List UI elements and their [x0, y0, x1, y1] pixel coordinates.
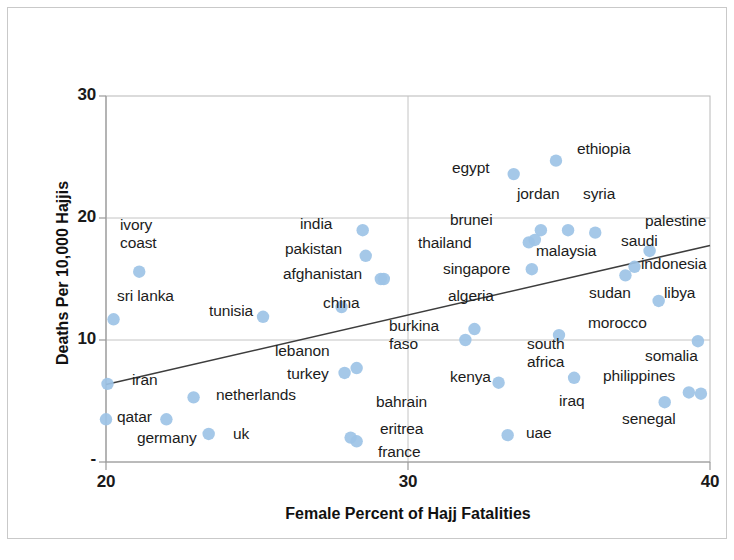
point-label-eritrea: eritrea — [380, 421, 423, 437]
point-label-turkey: turkey — [287, 366, 329, 382]
data-point-uae — [501, 429, 513, 441]
data-point-turkey — [350, 362, 362, 374]
data-point-indonesia — [652, 295, 664, 307]
point-label-ethiopia: ethiopia — [577, 141, 631, 157]
point-label-afghanistan: afghanistan — [283, 266, 362, 282]
point-label-brunei: brunei — [450, 212, 493, 228]
point-label-singapore: singapore — [443, 261, 510, 277]
point-label-south-africa: southafrica — [527, 335, 564, 372]
data-point-ethiopia — [550, 154, 562, 166]
point-label-algeria: algeria — [448, 288, 494, 304]
point-label-sudan: sudan — [589, 285, 631, 301]
point-label-burkina-faso: burkinafaso — [389, 317, 439, 354]
point-label-netherlands: netherlands — [216, 387, 296, 403]
point-label-iran: iran — [132, 372, 157, 388]
data-point-iran — [101, 378, 113, 390]
x-tick-label-20: 20 — [86, 472, 126, 492]
data-point-jordan — [535, 224, 547, 236]
data-point-kenya — [492, 377, 504, 389]
point-label-uae: uae — [526, 425, 552, 441]
data-point-somalia — [692, 335, 704, 347]
data-point-sri-lanka — [107, 313, 119, 325]
scatter-plot-figure: 30 20 10 - 20 30 40 Deaths Per 10,000 Ha… — [0, 0, 734, 560]
data-point-ivory-coast — [133, 265, 145, 277]
point-label-tunisia: tunisia — [209, 303, 253, 319]
point-label-egypt: egypt — [452, 160, 489, 176]
data-point-south-africa — [508, 168, 520, 180]
point-label-lebanon: lebanon — [275, 343, 329, 359]
point-label-saudi: saudi — [621, 233, 658, 249]
point-label-senegal: senegal — [622, 411, 676, 427]
point-label-germany: germany — [137, 430, 197, 446]
data-point-burkina-faso — [459, 334, 471, 346]
point-label-iraq: iraq — [559, 393, 584, 409]
data-point-netherlands — [187, 391, 199, 403]
data-point-algeria — [468, 323, 480, 335]
point-label-morocco: morocco — [588, 315, 647, 331]
x-tick-label-40: 40 — [690, 472, 730, 492]
data-point-philippines — [683, 386, 695, 398]
data-point-germany — [160, 413, 172, 425]
y-axis-title: Deaths Per 10,000 Hajjis — [54, 148, 72, 398]
point-label-uk: uk — [233, 426, 249, 442]
data-point-france — [350, 435, 362, 447]
data-point-saudi — [619, 269, 631, 281]
point-label-china: china — [323, 295, 360, 311]
point-label-libya: libya — [664, 285, 695, 301]
x-tick-label-30: 30 — [388, 472, 428, 492]
point-label-jordan: jordan — [517, 186, 560, 202]
point-label-palestine: palestine — [645, 213, 706, 229]
point-label-kenya: kenya — [450, 369, 491, 385]
data-point-afghanistan — [375, 273, 387, 285]
data-point-uk — [202, 428, 214, 440]
data-point-india — [357, 224, 369, 236]
data-point-senegal — [695, 387, 707, 399]
data-point-lebanon — [338, 367, 350, 379]
point-label-thailand: thailand — [418, 235, 472, 251]
data-point-singapore — [526, 263, 538, 275]
data-point-morocco — [568, 372, 580, 384]
data-point-tunisia — [257, 311, 269, 323]
data-point-malaysia — [562, 224, 574, 236]
point-label-ivory-coast: ivorycoast — [120, 216, 157, 253]
point-label-qatar: qatar — [117, 409, 152, 425]
data-point-pakistan — [360, 250, 372, 262]
point-label-sri-lanka: sri lanka — [117, 288, 174, 304]
data-point-libya — [659, 396, 671, 408]
point-label-france: france — [378, 444, 420, 460]
data-point-syria — [589, 226, 601, 238]
point-label-indonesia: indonesia — [641, 256, 706, 272]
point-label-bahrain: bahrain — [376, 394, 427, 410]
point-label-malaysia: malaysia — [536, 243, 596, 259]
point-label-philippines: philippines — [603, 368, 675, 384]
x-axis-title: Female Percent of Hajj Fatalities — [106, 505, 710, 523]
data-point-qatar — [100, 413, 112, 425]
point-label-india: india — [300, 216, 332, 232]
data-point-sudan — [628, 261, 640, 273]
point-label-somalia: somalia — [645, 348, 698, 364]
point-label-syria: syria — [583, 186, 615, 202]
y-tick-label-0: - — [58, 449, 96, 469]
point-label-pakistan: pakistan — [285, 241, 342, 257]
y-tick-label-30: 30 — [58, 85, 96, 105]
